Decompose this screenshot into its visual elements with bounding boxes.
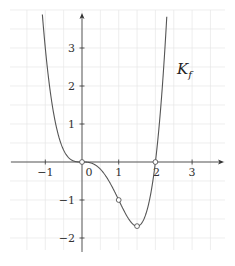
marked-point	[80, 160, 85, 165]
x-tick-label: 0	[86, 166, 93, 179]
x-tick-label: 1	[115, 166, 122, 179]
marked-point	[116, 198, 121, 203]
marked-point	[153, 160, 158, 165]
curve-label: Kf	[176, 60, 194, 80]
x-tick-label: 3	[189, 166, 196, 179]
y-tick-label: 3	[68, 42, 75, 55]
x-tick-label: −1	[37, 166, 53, 179]
y-tick-label: −1	[59, 194, 75, 207]
y-tick-label: 1	[68, 118, 75, 131]
y-tick-label: 2	[68, 80, 75, 93]
y-tick-label: −2	[59, 232, 75, 245]
function-plot: −10123−2−1123 Kf	[0, 0, 235, 266]
marked-point	[135, 224, 140, 229]
grid	[10, 10, 225, 250]
